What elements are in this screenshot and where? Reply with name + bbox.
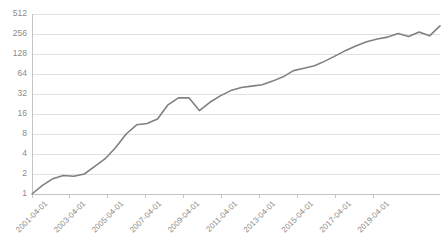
x-axis-tick-label: 2007-04-01: [128, 199, 164, 235]
y-axis-tick-label: 512: [13, 8, 27, 18]
log-scale-line-chart: 5122561286432168421 2001-04-012003-04-01…: [0, 0, 447, 244]
x-axis-tick-label: 2019-04-01: [356, 199, 392, 235]
x-axis-tick-labels: 2001-04-012003-04-012005-04-012007-04-01…: [14, 199, 391, 235]
y-axis-tick-label: 32: [18, 88, 28, 98]
x-axis-tick-label: 2015-04-01: [280, 199, 316, 235]
x-axis-tick-label: 2009-04-01: [166, 199, 202, 235]
y-axis-tick-label: 128: [13, 48, 27, 58]
x-axis-tick-marks: [32, 194, 374, 198]
y-axis-tick-label: 8: [22, 128, 27, 138]
y-axis-tick-label: 64: [18, 68, 28, 78]
y-axis-tick-label: 4: [22, 148, 27, 158]
chart-container: 5122561286432168421 2001-04-012003-04-01…: [0, 0, 447, 244]
y-axis-tick-label: 2: [22, 168, 27, 178]
data-series-line: [32, 26, 440, 194]
y-axis-tick-label: 16: [18, 108, 28, 118]
y-axis-tick-label: 1: [22, 188, 27, 198]
x-axis-tick-label: 2001-04-01: [14, 199, 50, 235]
x-axis-tick-label: 2011-04-01: [204, 199, 239, 234]
x-axis-tick-label: 2005-04-01: [90, 199, 126, 235]
y-axis-tick-labels: 5122561286432168421: [13, 8, 27, 198]
x-axis-tick-label: 2013-04-01: [242, 199, 278, 235]
x-axis-tick-label: 2003-04-01: [52, 199, 88, 235]
y-axis-tick-label: 256: [13, 28, 27, 38]
x-axis-tick-label: 2017-04-01: [318, 199, 354, 235]
